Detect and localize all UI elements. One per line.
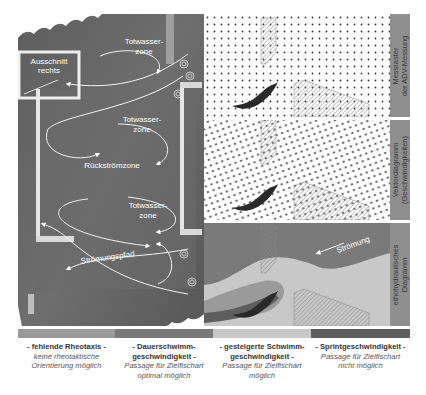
label-backflow: Rückströmzone (84, 161, 140, 170)
legend-item-increased-speed: - gesteigerte Schwimm- geschwindigkeit -… (213, 342, 311, 380)
legend-item-sustained-speed: - Dauerschwimm- geschwindigkeit - Passag… (115, 342, 213, 380)
svg-text:rechts: rechts (38, 66, 60, 75)
sidelabel-measurement-grid: Messrasterder ADV-Messung (390, 14, 410, 117)
panel-vector-diagram (204, 120, 390, 220)
label-deadwater-low: Totwasser- (129, 201, 168, 210)
legend-swatch-sustained-speed (115, 329, 213, 338)
label-deadwater-mid: Totwasser- (123, 115, 162, 124)
svg-text:zone: zone (133, 125, 151, 134)
label-inset: Ausschnitt (31, 57, 69, 66)
sidelabel-ethohydraulic-diagram: ethohydraulischesDiagramm (390, 223, 410, 326)
label-flow: Strömung (335, 234, 371, 254)
legend-swatch-sprint-speed (311, 329, 410, 338)
legend-item-no-rheotaxis: - fehlende Rheotaxis - keine rheotaktisc… (18, 342, 115, 371)
panel-ethohydraulic-diagram: Strömung (204, 223, 390, 326)
svg-text:zone: zone (135, 47, 153, 56)
svg-text:zone: zone (139, 211, 157, 220)
panel-measurement-grid (204, 14, 390, 117)
diagram-panels: Strömung (204, 14, 390, 326)
aerial-photo-fishway: Ausschnitt rechts Totwasser- zone Totwas… (18, 14, 204, 326)
legend-swatch-increased-speed (213, 329, 311, 338)
legend-swatch-no-rheotaxis (18, 329, 115, 338)
label-deadwater-top: Totwasser- (125, 37, 164, 46)
legend-item-sprint-speed: - Sprintgeschwindigkeit - Passage für Zi… (311, 342, 410, 371)
legend-color-bar (18, 329, 410, 338)
sidelabel-vector-diagram: Vektordiagramm(Geschwindigkeiten) (390, 120, 410, 220)
